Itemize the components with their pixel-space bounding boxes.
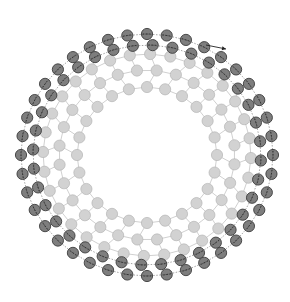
light-bead xyxy=(230,96,241,107)
light-bead xyxy=(236,191,247,202)
light-bead xyxy=(123,84,134,95)
dark-bead xyxy=(167,42,178,53)
light-bead xyxy=(245,152,256,163)
light-bead xyxy=(188,77,199,88)
light-bead xyxy=(244,133,255,144)
light-bead xyxy=(67,104,78,115)
light-bead xyxy=(178,244,189,255)
light-bead xyxy=(86,64,97,75)
dark-bead xyxy=(108,44,119,55)
light-bead xyxy=(217,80,228,91)
bead-ring-diagram xyxy=(0,0,290,302)
light-bead xyxy=(203,89,214,100)
light-bead xyxy=(74,132,85,143)
light-bead xyxy=(95,221,106,232)
light-bead xyxy=(216,104,227,115)
dark-bead xyxy=(199,42,210,53)
light-bead xyxy=(209,167,220,178)
dark-bead xyxy=(102,34,113,45)
light-bead xyxy=(197,235,208,246)
light-bead xyxy=(213,223,224,234)
light-bead xyxy=(202,67,213,78)
light-bead xyxy=(54,140,65,151)
light-bead xyxy=(191,197,202,208)
dark-bead xyxy=(186,48,197,59)
outer-dark-ring xyxy=(15,28,278,281)
light-bead xyxy=(94,78,105,89)
light-bead xyxy=(211,149,222,160)
light-bead xyxy=(202,183,213,194)
light-bead xyxy=(176,208,187,219)
light-bead xyxy=(66,219,77,230)
dark-bead xyxy=(180,34,191,45)
inner-light-ring xyxy=(71,81,222,228)
light-bead xyxy=(176,91,187,102)
light-bead xyxy=(58,178,69,189)
light-bead xyxy=(92,101,103,112)
light-bead xyxy=(151,65,162,76)
light-bead xyxy=(58,122,69,133)
light-bead xyxy=(239,114,250,125)
light-bead xyxy=(216,194,227,205)
light-bead xyxy=(229,140,240,151)
light-bead xyxy=(171,230,182,241)
light-bead xyxy=(151,234,162,245)
light-bead xyxy=(40,127,51,138)
light-bead xyxy=(141,81,152,92)
light-bead xyxy=(47,108,58,119)
light-bead xyxy=(105,55,116,66)
light-bead xyxy=(53,203,64,214)
light-bead xyxy=(70,76,81,87)
light-bead xyxy=(57,91,68,102)
light-bead xyxy=(54,159,65,170)
light-bead xyxy=(81,183,92,194)
dark-bead xyxy=(203,57,214,68)
light-bead-rings xyxy=(37,48,256,261)
light-bead xyxy=(229,159,240,170)
light-bead xyxy=(106,91,117,102)
light-bead xyxy=(243,172,254,183)
light-bead xyxy=(188,221,199,232)
light-bead xyxy=(81,232,92,243)
light-bead xyxy=(67,195,78,206)
light-bead xyxy=(224,121,235,132)
light-bead xyxy=(170,69,181,80)
light-bead xyxy=(225,177,236,188)
light-bead xyxy=(226,208,237,219)
light-bead xyxy=(160,215,171,226)
light-bead xyxy=(123,215,134,226)
light-bead xyxy=(209,132,220,143)
light-bead xyxy=(79,210,90,221)
light-bead xyxy=(39,166,50,177)
light-bead xyxy=(106,208,117,219)
light-bead xyxy=(71,149,82,160)
light-bead xyxy=(191,101,202,112)
light-bead xyxy=(132,234,143,245)
light-bead xyxy=(112,69,123,80)
dark-bead-rings xyxy=(15,28,278,281)
light-bead xyxy=(141,217,152,228)
light-bead xyxy=(131,65,142,76)
inner-dark-ring xyxy=(28,40,267,271)
light-bead xyxy=(81,115,92,126)
light-bead xyxy=(204,209,215,220)
light-bead xyxy=(44,185,55,196)
light-bead xyxy=(79,89,90,100)
light-bead xyxy=(92,197,103,208)
light-bead xyxy=(160,84,171,95)
light-bead xyxy=(113,230,124,241)
dark-bead xyxy=(193,247,204,258)
light-bead xyxy=(37,146,48,157)
light-bead xyxy=(202,115,213,126)
outer-light-ring xyxy=(37,48,256,261)
light-bead xyxy=(74,167,85,178)
